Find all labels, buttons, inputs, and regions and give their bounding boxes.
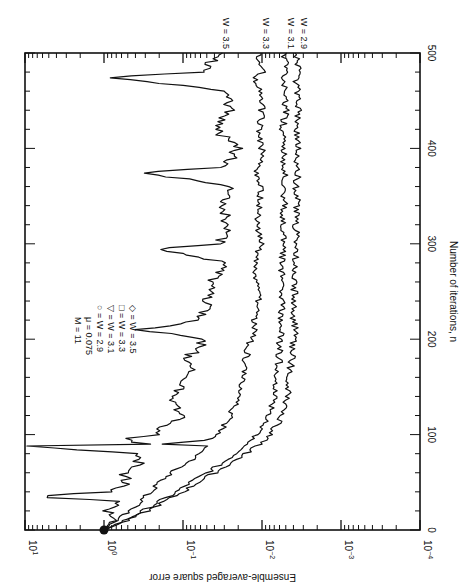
curves	[27, 53, 302, 535]
legend-entry: M = 11	[73, 317, 83, 344]
x-axis-title: Number of iterations, n	[448, 241, 459, 342]
plot-frame	[25, 53, 420, 530]
rotated-learning-curve-chart: 10110010−110−210−310−40100200300400500Nu…	[0, 0, 461, 585]
error-tick-label: 101	[27, 540, 39, 555]
curve-33	[104, 53, 266, 530]
curve-35	[27, 53, 243, 530]
svg-text:Ensemble-averaged square error: Ensemble-averaged square error	[148, 572, 295, 583]
svg-text:W = 3.3: W = 3.3	[261, 18, 271, 49]
iteration-tick-label: 300	[426, 235, 437, 252]
iteration-tick-label: 0	[426, 527, 437, 533]
legend-entry: ○ = W = 2.9	[95, 305, 105, 352]
axes	[25, 53, 420, 530]
svg-text:100: 100	[426, 426, 437, 443]
svg-text:400: 400	[426, 140, 437, 157]
error-tick-label: 10−1	[185, 540, 197, 559]
legend-entry: □ = W = 3.3	[117, 305, 127, 352]
svg-text:500: 500	[426, 45, 437, 62]
legend: M = 11μ = 0.075○ = W = 2.9▽ = W = 3.1□ =…	[73, 305, 138, 355]
iteration-tick-label: 100	[426, 426, 437, 443]
legend-entry: ▽ = W = 3.1	[106, 305, 116, 354]
curve-29	[104, 53, 302, 530]
svg-text:W = 2.9: W = 2.9	[299, 18, 309, 49]
svg-text:0: 0	[426, 527, 437, 533]
svg-text:W = 3.5: W = 3.5	[221, 18, 231, 49]
iteration-tick-label: 400	[426, 140, 437, 157]
svg-text:10−1: 10−1	[185, 540, 197, 559]
chart-canvas: 10110010−110−210−310−40100200300400500Nu…	[0, 0, 461, 585]
error-tick-label: 10−4	[422, 540, 434, 559]
svg-text:10−3: 10−3	[343, 540, 355, 559]
svg-text:10−2: 10−2	[264, 540, 276, 559]
error-tick-label: 10−2	[264, 540, 276, 559]
curve-end-label: W = 3.3	[261, 18, 271, 49]
svg-text:101: 101	[27, 540, 39, 555]
curve-end-label: W = 2.9	[299, 18, 309, 49]
curve-end-label: W = 3.1	[286, 18, 296, 49]
y-axis-title: Ensemble-averaged square error	[148, 572, 295, 583]
svg-text:300: 300	[426, 235, 437, 252]
svg-text:Number of iterations, n: Number of iterations, n	[448, 241, 459, 342]
svg-text:100: 100	[106, 540, 118, 555]
svg-text:W = 3.1: W = 3.1	[286, 18, 296, 49]
svg-text:200: 200	[426, 331, 437, 348]
svg-text:10−4: 10−4	[422, 540, 434, 559]
curve-end-label: W = 3.5	[221, 18, 231, 49]
iteration-tick-label: 500	[426, 45, 437, 62]
start-point-marker	[100, 526, 109, 535]
legend-entry: ◇ = W = 3.5	[128, 305, 138, 354]
iteration-tick-label: 200	[426, 331, 437, 348]
error-tick-label: 100	[106, 540, 118, 555]
legend-entry: μ = 0.075	[84, 317, 94, 355]
labels: 10110010−110−210−310−40100200300400500Nu…	[27, 18, 459, 583]
error-tick-label: 10−3	[343, 540, 355, 559]
